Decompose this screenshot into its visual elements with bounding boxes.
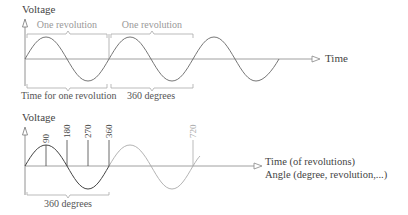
- tick-label-270: 270: [83, 124, 93, 138]
- top-bracket-2: [111, 31, 193, 38]
- bottom-x-axis-arrow-icon: [254, 163, 262, 169]
- tick-label-90: 90: [41, 134, 51, 144]
- bracket-label-1: One revolution: [37, 19, 97, 30]
- tick-label-180: 180: [62, 124, 72, 138]
- top-y-label: Voltage: [22, 3, 56, 15]
- top-360-degrees-label: 360 degrees: [127, 90, 175, 101]
- bottom-x-label-time: Time (of revolutions): [265, 156, 356, 168]
- bottom-x-label-angle: Angle (degree, revolution,...): [265, 169, 388, 181]
- bottom-y-axis-arrow-icon: [23, 127, 28, 135]
- bottom-chart: Voltage Time (of revolutions) Angle (deg…: [22, 111, 388, 209]
- top-bracket-1: [27, 31, 107, 38]
- bottom-y-label: Voltage: [22, 111, 56, 123]
- tick-label-360: 360: [104, 124, 114, 138]
- sine-wave-diagram: Voltage Time One revolution One revoluti…: [0, 0, 408, 215]
- top-y-axis-arrow-icon: [23, 19, 28, 27]
- bracket-label-2: One revolution: [122, 19, 182, 30]
- top-chart: Voltage Time One revolution One revoluti…: [21, 3, 348, 101]
- top-x-label: Time: [325, 52, 348, 64]
- bottom-360-degrees-label: 360 degrees: [44, 198, 92, 209]
- bottom-sine-second-cycle: [109, 145, 200, 189]
- time-for-one-revolution-label: Time for one revolution: [21, 90, 116, 101]
- tick-label-720: 720: [188, 124, 198, 138]
- top-x-axis-arrow-icon: [312, 56, 320, 62]
